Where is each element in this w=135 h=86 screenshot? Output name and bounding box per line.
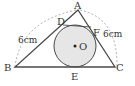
measure-left: 6cm: [18, 35, 38, 45]
incircle-diagram: A D F O B E C 6cm 6cm: [0, 0, 135, 86]
label-a: A: [73, 0, 82, 11]
center-point-o: [74, 45, 77, 48]
label-c: C: [116, 62, 124, 73]
label-o: O: [79, 41, 87, 52]
label-e: E: [71, 71, 78, 82]
label-b: B: [4, 62, 11, 73]
measure-right: 6cm: [103, 29, 123, 39]
label-f: F: [93, 27, 100, 38]
label-d: D: [57, 16, 65, 27]
